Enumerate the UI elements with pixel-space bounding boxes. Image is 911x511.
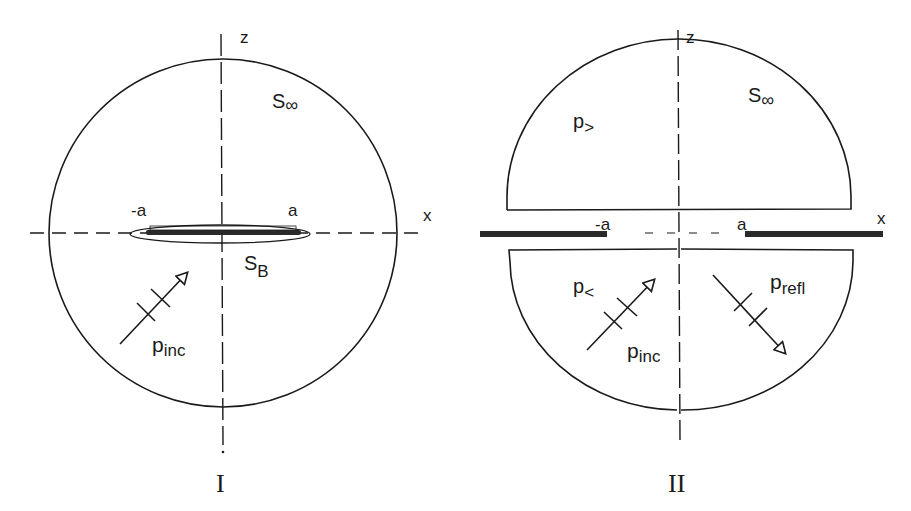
- panel-1-caption: I: [216, 469, 225, 498]
- z-axis-label: z: [240, 28, 249, 47]
- panel-2: z x -a a S∞ p> p< pinc prefl II: [480, 28, 886, 498]
- s-body-label: SB: [244, 252, 269, 281]
- baffle-right: [745, 231, 883, 237]
- p-greater-label: p>: [573, 110, 594, 137]
- lower-half-surface-left: [509, 249, 677, 410]
- p-less-label: p<: [573, 275, 594, 302]
- plus-a-label-2: a: [737, 215, 747, 234]
- plus-a-label: a: [288, 201, 298, 220]
- baffle-left: [480, 231, 607, 237]
- minus-a-label: -a: [131, 201, 147, 220]
- z-axis-2: [678, 30, 680, 440]
- z-axis: [221, 34, 223, 445]
- x-axis-label: x: [423, 206, 432, 225]
- p-inc-label-2: pinc: [627, 339, 661, 366]
- s-infinity-label-2: S∞: [748, 84, 774, 110]
- panel-2-caption: II: [668, 469, 685, 498]
- z-axis-dot: [222, 451, 225, 454]
- incident-arrow-2: [587, 280, 654, 350]
- z-axis-label-2: z: [686, 28, 695, 47]
- minus-a-label-2: -a: [595, 215, 611, 234]
- p-refl-label: prefl: [770, 270, 805, 298]
- s-infinity-label: S∞: [272, 90, 298, 115]
- lower-half-surface-right: [681, 249, 853, 410]
- disk-strip: [146, 230, 301, 235]
- p-inc-label: pinc: [152, 333, 186, 360]
- panel-1: z x -a a S∞ SB pinc I: [30, 28, 432, 498]
- diagram-canvas: z x -a a S∞ SB pinc I: [0, 0, 911, 511]
- x-axis-label-2: x: [877, 209, 886, 228]
